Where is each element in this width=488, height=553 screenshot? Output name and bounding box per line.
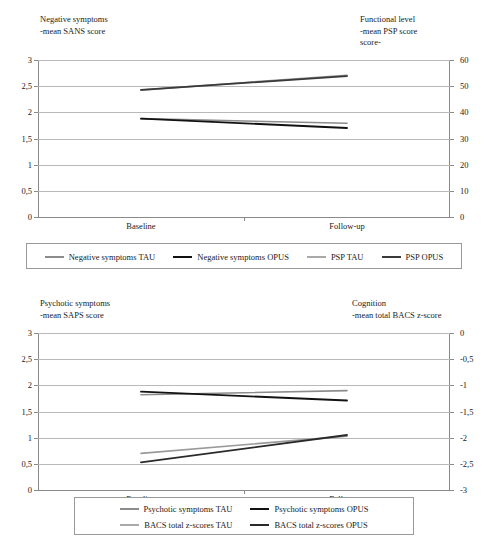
left-axis-tick-label: 1 — [0, 433, 38, 443]
legend-line-swatch — [307, 256, 326, 257]
series-line — [141, 435, 347, 462]
series-line — [141, 76, 347, 90]
right-axis-tick-label: -1,5 — [454, 407, 488, 417]
right-axis-tick-label: -2,5 — [454, 459, 488, 469]
panel1-xlabel-baseline: Baseline — [126, 221, 155, 231]
legend-item[interactable]: Negative symptoms TAU — [45, 252, 156, 262]
legend-line-swatch — [173, 256, 192, 258]
left-axis-tick-label: 2,5 — [0, 81, 38, 91]
legend-label: Psychotic symptoms OPUS — [274, 504, 368, 514]
left-axis-tick-label: 0,5 — [0, 459, 38, 469]
panel2-series-lines — [38, 333, 450, 490]
legend-item[interactable]: Negative symptoms OPUS — [173, 252, 289, 262]
panel2-plot-area: 00,511,522,53 -3-2,5-2-1,5-1-0,50 Baseli… — [38, 333, 450, 490]
panel2-left-axis-title: Psychotic symptoms -mean SAPS score — [40, 298, 110, 321]
panel1-legend: Negative symptoms TAUNegative symptoms O… — [26, 243, 462, 269]
legend-label: PSP TAU — [331, 252, 364, 262]
legend-label: Negative symptoms OPUS — [197, 252, 289, 262]
panel1-series-lines — [38, 60, 450, 217]
legend-line-swatch — [45, 256, 64, 258]
legend-label: BACS total z-scores OPUS — [274, 520, 367, 530]
right-axis-tick-label: -3 — [454, 485, 488, 495]
legend-line-swatch — [120, 524, 139, 525]
right-axis-tick-label: 10 — [454, 186, 488, 196]
panel1-plot-area: 00,511,522,53 0102030405060 Baseline Fol… — [38, 60, 450, 217]
legend-item[interactable]: BACS total z-scores TAU — [120, 520, 232, 530]
right-axis-tick-label: 20 — [454, 160, 488, 170]
panel1-xlabel-followup: Follow-up — [329, 221, 364, 231]
left-axis-tick-label: 1,5 — [0, 134, 38, 144]
legend-item[interactable]: PSP OPUS — [382, 252, 444, 262]
right-axis-tick-label: -0,5 — [454, 354, 488, 364]
left-axis-tick-label: 3 — [0, 328, 38, 338]
right-axis-tick-label: 0 — [454, 212, 488, 222]
left-axis-tick-label: 1 — [0, 160, 38, 170]
left-axis-tick-label: 0 — [0, 485, 38, 495]
panel-psychotic-symptoms-bacs: Psychotic symptoms -mean SAPS score Cogn… — [0, 290, 488, 553]
panel1-left-axis-title: Negative symptoms -mean SANS score — [40, 14, 108, 37]
panel2-xtick-mid — [244, 490, 245, 494]
legend-row: Negative symptoms TAUNegative symptoms O… — [27, 247, 461, 267]
left-axis-tick-label: 3 — [0, 55, 38, 65]
panel-negative-symptoms-psp: Negative symptoms -mean SANS score Funct… — [0, 0, 488, 285]
legend-label: PSP OPUS — [406, 252, 444, 262]
left-axis-tick-label: 0,5 — [0, 186, 38, 196]
legend-label: Psychotic symptoms TAU — [144, 504, 233, 514]
legend-line-swatch — [250, 524, 269, 526]
legend-line-swatch — [120, 508, 139, 510]
right-axis-tick-label: 30 — [454, 134, 488, 144]
panel2-legend: Psychotic symptoms TAUPsychotic symptoms… — [74, 497, 414, 535]
right-axis-tick-label: -1 — [454, 380, 488, 390]
left-axis-tick-label: 2 — [0, 380, 38, 390]
left-axis-tick-label: 2 — [0, 107, 38, 117]
left-axis-tick-label: 1,5 — [0, 407, 38, 417]
legend-line-swatch — [250, 508, 269, 510]
right-axis-tick-label: 60 — [454, 55, 488, 65]
right-axis-tick-label: 0 — [454, 328, 488, 338]
legend-row: Psychotic symptoms TAUPsychotic symptoms… — [75, 501, 413, 517]
left-axis-tick-label: 2,5 — [0, 354, 38, 364]
legend-row: BACS total z-scores TAUBACS total z-scor… — [75, 517, 413, 533]
legend-item[interactable]: PSP TAU — [307, 252, 364, 262]
legend-line-swatch — [382, 256, 401, 258]
legend-item[interactable]: Psychotic symptoms OPUS — [250, 504, 368, 514]
legend-label: Negative symptoms TAU — [69, 252, 156, 262]
legend-label: BACS total z-scores TAU — [144, 520, 232, 530]
left-axis-tick-label: 0 — [0, 212, 38, 222]
panel1-xtick-mid — [244, 217, 245, 221]
legend-item[interactable]: BACS total z-scores OPUS — [250, 520, 367, 530]
right-axis-tick-label: 50 — [454, 81, 488, 91]
panel1-right-axis-title: Functional level -mean PSP score score- — [360, 14, 480, 49]
legend-item[interactable]: Psychotic symptoms TAU — [120, 504, 233, 514]
right-axis-tick-label: 40 — [454, 107, 488, 117]
panel2-right-axis-title: Cognition -mean total BACS z-score — [352, 298, 484, 321]
right-axis-tick-label: -2 — [454, 433, 488, 443]
